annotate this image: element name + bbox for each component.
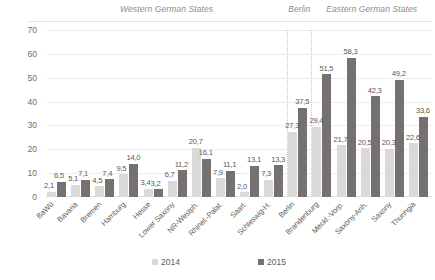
bar-2014[interactable]: [119, 174, 128, 197]
x-axis-category-label: Saarl.: [228, 200, 248, 220]
bar-2015[interactable]: [202, 159, 211, 197]
bar-2014[interactable]: [264, 180, 273, 197]
bar-value-label-2015: 13,3: [271, 156, 285, 164]
bar-value-label-2015: 11,2: [175, 161, 188, 169]
bar-group: 4,57,4Bremen: [94, 30, 118, 197]
bar-2015[interactable]: [226, 171, 235, 197]
bar-value-label-2015: 42,3: [368, 87, 382, 95]
y-axis-tick-label: 0: [7, 193, 37, 202]
bar-value-label-2015: 13,1: [247, 156, 261, 164]
bar-2014[interactable]: [47, 192, 56, 197]
bar-value-label-2014: 29,4: [309, 117, 323, 125]
bar-group: 7,911,1Rhinel.-Palat.: [215, 30, 239, 197]
legend-item-2014[interactable]: 2014: [152, 258, 180, 267]
bar-value-label-2014: 20,7: [189, 138, 203, 146]
bar-2014[interactable]: [240, 192, 249, 197]
y-axis-tick-label: 40: [7, 97, 37, 106]
bar-2015[interactable]: [274, 165, 283, 197]
bar-value-label-2014: 27,3: [285, 122, 299, 130]
bar-value-label-2014: 5,1: [68, 175, 78, 183]
header-divider: [28, 21, 432, 22]
bar-2015[interactable]: [250, 166, 259, 197]
bar-group: 20,542,3Saxony-Anh.: [360, 30, 384, 197]
bar-value-label-2015: 7,4: [102, 170, 112, 178]
bar-2015[interactable]: [57, 182, 66, 198]
bar-2015[interactable]: [347, 58, 356, 197]
y-axis-tick-label: 10: [7, 169, 37, 178]
bar-2014[interactable]: [144, 189, 153, 197]
bar-2015[interactable]: [81, 180, 90, 197]
bar-group: 2,013,1Saarl.: [239, 30, 263, 197]
bar-2015[interactable]: [154, 189, 163, 197]
x-axis-category-label: Thuringia: [389, 200, 417, 228]
bar-2015[interactable]: [178, 170, 187, 197]
bar-group: 9,514,0Hamburg: [118, 30, 142, 197]
bar-2014[interactable]: [216, 178, 225, 197]
x-axis-category-label: Berlin: [277, 200, 297, 220]
bar-group: 3,43,2Hesse: [143, 30, 167, 197]
bar-value-label-2015: 11,1: [223, 161, 236, 169]
bar-value-label-2014: 7,3: [261, 170, 271, 178]
bar-2015[interactable]: [322, 74, 331, 197]
group-header-band: Western German StatesBerlinEastern Germa…: [0, 4, 435, 22]
bar-value-label-2015: 37,5: [295, 98, 309, 106]
x-axis-category-label: Bavaria: [55, 200, 79, 224]
bar-2014[interactable]: [95, 186, 104, 197]
legend-swatch-icon: [258, 259, 264, 265]
bar-group: 20,716,1NR-Westph.: [191, 30, 215, 197]
bar-2014[interactable]: [312, 127, 321, 197]
x-axis-category-label: Hamburg: [100, 200, 128, 228]
bar-value-label-2014: 20,5: [358, 139, 372, 147]
bar-value-label-2014: 9,5: [116, 165, 126, 173]
y-axis-tick-label: 50: [7, 73, 37, 82]
bar-2014[interactable]: [385, 149, 394, 197]
bar-value-label-2015: 33,6: [416, 107, 430, 115]
legend-swatch-icon: [152, 259, 158, 265]
y-axis-tick-label: 60: [7, 50, 37, 59]
bar-value-label-2015: 3,2: [151, 180, 161, 188]
bar-group: 22,633,6Thuringia: [408, 30, 432, 197]
bar-value-label-2014: 7,9: [213, 169, 223, 177]
bar-group: 5,17,1Bavaria: [70, 30, 94, 197]
bar-value-label-2015: 49,2: [392, 70, 406, 78]
bar-2015[interactable]: [298, 108, 307, 197]
bar-group: 21,758,3Meckl.-Vorp.: [336, 30, 360, 197]
legend-label: 2015: [267, 258, 286, 267]
bar-value-label-2014: 4,5: [92, 177, 102, 185]
bar-value-label-2015: 6,5: [54, 172, 64, 180]
plot-area: 0102030405060702,16,5BaWü5,17,1Bavaria4,…: [46, 30, 432, 197]
y-axis-tick-label: 30: [7, 121, 37, 130]
x-axis-category-label: BaWü: [35, 200, 56, 221]
bar-value-label-2015: 7,1: [78, 170, 88, 178]
bar-value-label-2014: 6,7: [165, 171, 175, 179]
bar-2014[interactable]: [337, 145, 346, 197]
legend-label: 2014: [161, 258, 180, 267]
bar-2014[interactable]: [71, 185, 80, 197]
bar-value-label-2014: 3,4: [141, 179, 151, 187]
bar-value-label-2014: 20,3: [382, 139, 396, 147]
bar-value-label-2015: 16,1: [199, 149, 213, 157]
bar-2014[interactable]: [168, 181, 177, 197]
bar-2014[interactable]: [409, 143, 418, 197]
bar-2015[interactable]: [371, 96, 380, 197]
bar-value-label-2015: 14,0: [126, 154, 140, 162]
bar-group: 7,313,3Schleswig-H.: [263, 30, 287, 197]
bar-2015[interactable]: [105, 179, 114, 197]
bar-2014[interactable]: [288, 132, 297, 197]
bar-value-label-2014: 21,7: [334, 136, 348, 144]
bar-value-label-2014: 2,0: [237, 183, 247, 191]
bar-chart: Western German StatesBerlinEastern Germa…: [0, 0, 435, 280]
bar-2015[interactable]: [395, 80, 404, 197]
bar-2014[interactable]: [361, 148, 370, 197]
bar-group: 29,451,5Brandenburg: [311, 30, 335, 197]
bar-group: 27,337,5Berlin: [287, 30, 311, 197]
bar-group: 6,711,2Lower Saxony: [167, 30, 191, 197]
legend-item-2015[interactable]: 2015: [258, 258, 286, 267]
bar-2015[interactable]: [129, 164, 138, 197]
y-axis-tick-label: 20: [7, 145, 37, 154]
bar-value-label-2015: 51,5: [319, 65, 333, 73]
bar-group: 2,16,5BaWü: [46, 30, 70, 197]
bar-group: 20,349,2Saxony: [384, 30, 408, 197]
bar-2015[interactable]: [419, 117, 428, 197]
chart-legend: 20142015: [0, 258, 435, 272]
